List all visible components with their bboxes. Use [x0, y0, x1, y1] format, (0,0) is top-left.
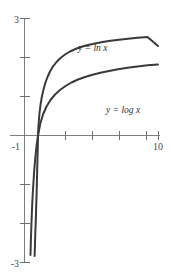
- x-axis-left-label: -1: [12, 141, 20, 152]
- log-functions-chart: 3 -3 -1 10 y = ln x y = log x: [0, 0, 173, 276]
- y-axis-bottom-label: -3: [11, 258, 19, 269]
- annotation-log-x: y = log x: [105, 105, 141, 115]
- y-axis-top-label: 3: [14, 14, 19, 25]
- annotation-ln-x: y = ln x: [77, 43, 108, 53]
- chart-canvas: 3 -3 -1 10 y = ln x y = log x: [0, 0, 173, 276]
- x-axis-right-label: 10: [153, 141, 163, 152]
- curve-log-x: [31, 65, 159, 256]
- curve-ln-x: [35, 37, 158, 256]
